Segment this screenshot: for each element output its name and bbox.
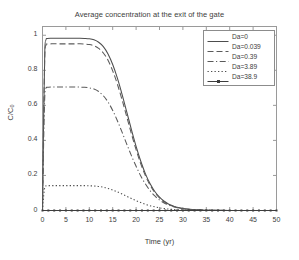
x-tick-label: 10 (79, 216, 99, 223)
x-tick-label: 20 (126, 216, 146, 223)
x-tick-label: 5 (56, 216, 76, 223)
series-marker (235, 210, 237, 212)
x-axis-label: Time (yr) (42, 237, 277, 246)
x-tick-label: 0 (33, 216, 53, 223)
legend-label: Da=3.89 (232, 63, 257, 70)
series-marker (123, 210, 125, 212)
x-tick-label: 35 (196, 216, 216, 223)
legend-line-sample-icon (207, 72, 229, 81)
series-marker (194, 210, 196, 212)
series-marker (42, 210, 44, 212)
series-marker (270, 210, 272, 212)
series-marker (159, 210, 161, 212)
series-marker (94, 210, 96, 212)
series-marker (188, 210, 190, 212)
y-tick-label: 0.4 (16, 135, 38, 142)
legend-line-sample-icon (207, 52, 229, 61)
x-tick-label: 50 (267, 216, 287, 223)
legend: Da=0Da=0.039Da=0.39Da=3.89Da=38.9 (203, 30, 275, 86)
series-marker (88, 210, 90, 212)
series-line-da-0-39 (43, 87, 277, 211)
legend-item[interactable]: Da=0 (204, 31, 274, 41)
x-tick-label: 15 (103, 216, 123, 223)
legend-line-sample-icon (207, 62, 229, 71)
series-marker (246, 210, 248, 212)
series-marker (129, 210, 131, 212)
legend-line-sample-icon (207, 42, 229, 51)
legend-item[interactable]: Da=3.89 (204, 62, 274, 72)
series-marker (153, 210, 155, 212)
legend-item[interactable]: Da=38.9 (204, 72, 274, 82)
series-marker (240, 210, 242, 212)
series-marker (182, 210, 184, 212)
series-marker (112, 210, 114, 212)
series-marker (264, 210, 266, 212)
series-marker (147, 210, 149, 212)
series-marker (100, 210, 102, 212)
legend-item[interactable]: Da=0.039 (204, 41, 274, 51)
series-marker (276, 210, 278, 212)
x-tick-label: 45 (243, 216, 263, 223)
x-tick-label: 40 (220, 216, 240, 223)
series-marker (229, 210, 231, 212)
x-tick-label: 30 (173, 216, 193, 223)
series-marker (77, 210, 79, 212)
series-marker (217, 210, 219, 212)
series-marker (252, 210, 254, 212)
series-marker (211, 210, 213, 212)
y-axis-label-main: C/C (6, 108, 15, 121)
series-marker (47, 210, 49, 212)
series-marker (59, 210, 61, 212)
series-marker (223, 210, 225, 212)
series-marker (118, 210, 120, 212)
series-marker (53, 210, 55, 212)
y-tick-label: 0.8 (16, 65, 38, 72)
y-axis-label-subscript: 0 (9, 105, 15, 108)
y-tick-label: 0.2 (16, 170, 38, 177)
y-tick-label: 0 (16, 206, 38, 213)
series-marker (106, 210, 108, 212)
series-marker (141, 210, 143, 212)
figure-container: Average concentration at the exit of the… (0, 0, 299, 260)
series-marker (135, 210, 137, 212)
legend-label: Da=0 (232, 33, 248, 40)
series-marker (71, 210, 73, 212)
y-axis-label: C/C0 (6, 93, 15, 133)
legend-label: Da=38.9 (232, 73, 257, 80)
y-tick-label: 1 (16, 30, 38, 37)
legend-line-sample-icon (207, 32, 229, 41)
series-marker (205, 210, 207, 212)
legend-label: Da=0.39 (232, 53, 257, 60)
series-marker (176, 210, 178, 212)
series-marker (199, 210, 201, 212)
series-marker (258, 210, 260, 212)
legend-label: Da=0.039 (232, 43, 261, 50)
legend-item[interactable]: Da=0.39 (204, 51, 274, 61)
x-tick-label: 25 (150, 216, 170, 223)
series-marker (164, 210, 166, 212)
series-marker (82, 210, 84, 212)
series-marker (170, 210, 172, 212)
series-marker (65, 210, 67, 212)
y-tick-label: 0.6 (16, 100, 38, 107)
